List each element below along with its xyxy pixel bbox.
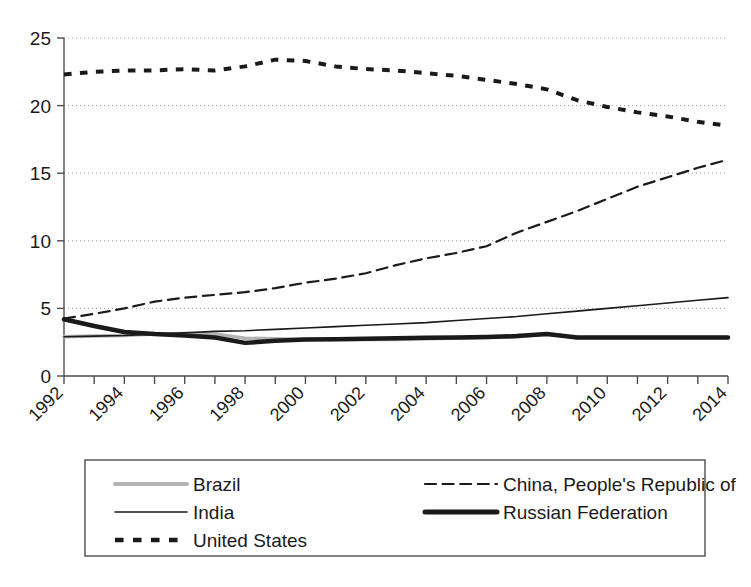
- legend-label: United States: [193, 530, 307, 551]
- legend-label: India: [193, 502, 235, 523]
- line-chart: 0510152025 19921994199619982000200220042…: [0, 0, 751, 587]
- y-tick-label-15: 15: [30, 163, 51, 184]
- y-tick-label-0: 0: [40, 366, 51, 387]
- legend-label: China, People's Republic of: [503, 474, 737, 495]
- chart-container: 0510152025 19921994199619982000200220042…: [0, 0, 751, 587]
- chart-background: [0, 0, 751, 587]
- y-tick-label-20: 20: [30, 96, 51, 117]
- y-tick-label-5: 5: [40, 298, 51, 319]
- y-tick-label-10: 10: [30, 231, 51, 252]
- legend-label: Russian Federation: [503, 502, 668, 523]
- y-tick-label-25: 25: [30, 28, 51, 49]
- legend-label: Brazil: [193, 474, 241, 495]
